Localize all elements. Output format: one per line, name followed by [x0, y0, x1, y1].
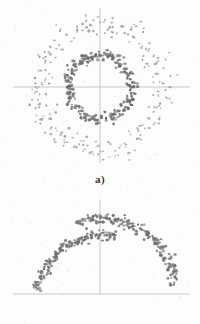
data-point: [170, 277, 172, 279]
speckle: [139, 30, 140, 31]
data-point: [139, 21, 142, 23]
speckle: [95, 271, 96, 272]
data-point: [108, 156, 111, 158]
data-point: [139, 228, 142, 230]
data-point: [65, 244, 68, 246]
speckle: [66, 80, 67, 81]
data-point: [115, 62, 119, 64]
speckle: [164, 253, 165, 254]
data-point: [82, 144, 85, 146]
data-point: [86, 20, 88, 21]
data-point: [53, 138, 55, 141]
data-point: [54, 141, 57, 143]
data-point: [142, 31, 144, 33]
speckle: [60, 217, 61, 218]
data-point: [44, 132, 47, 134]
data-point: [94, 214, 97, 216]
speckle: [113, 96, 114, 97]
data-point: [36, 88, 38, 90]
data-point: [127, 33, 129, 36]
data-point: [84, 113, 86, 115]
data-point: [175, 273, 178, 275]
data-point: [130, 133, 132, 136]
data-point: [168, 253, 171, 255]
data-point: [164, 245, 167, 248]
data-point: [105, 119, 108, 122]
scatter-plot-a: [0, 0, 200, 190]
data-point: [97, 118, 99, 121]
data-point: [102, 229, 104, 231]
data-point: [54, 251, 57, 253]
data-point: [159, 102, 161, 105]
data-point: [158, 118, 160, 120]
speckle: [149, 158, 150, 159]
data-point: [89, 52, 92, 55]
speckle: [122, 23, 123, 24]
data-point: [159, 251, 162, 254]
data-point: [174, 253, 177, 256]
data-point: [63, 141, 65, 143]
data-point: [99, 115, 103, 117]
data-point: [31, 89, 33, 91]
data-point: [56, 130, 58, 132]
data-point: [71, 59, 75, 62]
data-point: [89, 234, 92, 237]
data-point: [72, 93, 74, 96]
data-point: [68, 84, 72, 86]
speckle: [189, 152, 190, 153]
data-point: [44, 69, 46, 72]
data-point: [123, 71, 126, 73]
data-point: [59, 134, 62, 137]
data-point: [37, 270, 39, 273]
speckle: [197, 166, 198, 167]
data-point: [130, 95, 132, 98]
data-point: [49, 61, 52, 63]
data-point: [83, 140, 85, 142]
data-point: [135, 233, 138, 236]
scatter-plot-b: [0, 190, 200, 324]
data-point: [115, 67, 118, 70]
data-point: [87, 216, 90, 219]
data-point: [114, 117, 117, 120]
data-point: [168, 266, 170, 269]
data-point: [153, 243, 155, 245]
data-point: [152, 239, 156, 242]
data-point: [86, 145, 89, 147]
data-point: [159, 81, 161, 83]
data-point: [97, 153, 99, 155]
data-point: [98, 214, 100, 216]
data-point: [49, 272, 52, 275]
data-point: [49, 113, 51, 116]
speckle: [99, 196, 100, 197]
speckle: [140, 76, 141, 77]
data-point: [105, 54, 108, 56]
data-point: [71, 104, 73, 106]
speckle: [17, 258, 18, 259]
speckle: [27, 240, 28, 241]
speckle: [85, 133, 86, 134]
data-point: [102, 57, 104, 60]
data-point: [122, 56, 125, 59]
data-point: [110, 55, 113, 57]
data-point: [86, 233, 89, 235]
data-point: [98, 54, 101, 57]
speckle: [154, 278, 155, 279]
data-point: [98, 51, 100, 53]
data-point: [35, 91, 38, 93]
data-point: [133, 24, 135, 26]
data-point: [37, 104, 40, 106]
data-point: [67, 93, 71, 96]
data-point: [119, 147, 121, 149]
panel-b: b): [0, 190, 200, 324]
data-point: [104, 19, 106, 22]
data-point: [78, 105, 81, 108]
data-point: [155, 249, 158, 252]
data-point: [131, 98, 135, 101]
speckle: [125, 124, 126, 125]
data-point: [101, 239, 105, 241]
data-point: [152, 111, 154, 113]
data-point: [111, 31, 114, 33]
data-point: [34, 92, 36, 94]
data-point: [152, 94, 154, 96]
data-point: [71, 68, 73, 70]
